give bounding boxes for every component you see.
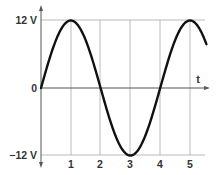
x-tick-3: 3 [127, 158, 133, 170]
y-axis-arrow-up-icon [39, 5, 43, 11]
x-tick-5: 5 [187, 158, 193, 170]
y-label-bottom: −12 V [9, 149, 37, 161]
x-axis-arrow-right-icon [204, 86, 210, 90]
sine-wave-chart: 12 V 0 −12 V t 1 2 3 4 5 [0, 0, 216, 175]
x-tick-4: 4 [157, 158, 163, 170]
x-tick-2: 2 [97, 158, 103, 170]
y-label-zero: 0 [31, 82, 37, 94]
x-tick-1: 1 [68, 158, 74, 170]
y-axis-arrow-down-icon [39, 162, 43, 168]
x-axis-label: t [196, 73, 200, 85]
y-label-top: 12 V [15, 14, 37, 26]
